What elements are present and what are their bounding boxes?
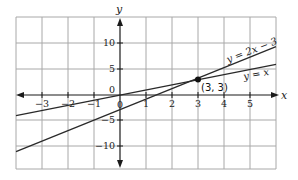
- x-axis-arrow-right-icon: [271, 92, 279, 98]
- y-tick-label: −5: [101, 114, 115, 125]
- intersection-label: (3, 3): [201, 82, 228, 93]
- x-tick-label: 4: [221, 98, 227, 109]
- x-tick-label: 5: [247, 98, 253, 109]
- x-axis-arrow-left-icon: [16, 92, 24, 98]
- x-tick-label: −2: [61, 98, 75, 109]
- x-tick-label: 2: [169, 98, 175, 109]
- y-tick-labels: 10 5 0 −5 −10: [95, 37, 115, 151]
- equation-label-2x-minus-3: y = 2x − 3: [224, 35, 279, 65]
- y-tick-label: −10: [95, 140, 115, 151]
- y-tick-label: 10: [103, 37, 115, 48]
- x-tick-label: −3: [35, 98, 49, 109]
- y-tick-label: 0: [109, 84, 115, 95]
- coordinate-plane: −3 −2 −1 0 1 2 3 4 5 10 5 0 −5 −10 y x (…: [0, 0, 298, 180]
- y-axis-label: y: [115, 3, 123, 16]
- y-tick-label: 5: [109, 63, 115, 74]
- x-axis-label: x: [281, 89, 288, 102]
- y-axis-arrow-down-icon: [117, 160, 123, 168]
- y-axis-arrow-up-icon: [117, 18, 123, 26]
- x-tick-label: 3: [195, 98, 201, 109]
